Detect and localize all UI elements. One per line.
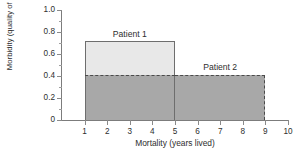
x-axis-tick [152, 120, 153, 125]
chart-container: Morbidity (quality of life scale) 00.20.… [0, 0, 300, 159]
y-axis-title: Morbidity (quality of life scale) [5, 0, 14, 74]
series-label-patient-2: Patient 2 [203, 62, 237, 72]
y-axis-tick [57, 10, 62, 11]
y-axis-tick-label: 0.6 [44, 50, 55, 58]
x-axis-tick [107, 120, 108, 125]
x-axis-tick-label: 9 [263, 128, 268, 136]
y-axis-minor-tick [59, 43, 62, 44]
y-axis-tick-label: 0.2 [44, 94, 55, 102]
plot-area: 00.20.40.60.81.012345678910 Patient 1Pat… [62, 10, 288, 120]
y-axis-tick-label: 0 [50, 116, 55, 124]
y-axis-tick-label: 1.0 [44, 6, 55, 14]
x-axis-tick [175, 120, 176, 125]
bar-patient-2-body [175, 75, 265, 120]
x-axis-tick-label: 1 [82, 128, 87, 136]
x-axis-tick [243, 120, 244, 125]
y-axis-tick [57, 98, 62, 99]
x-axis-tick-label: 8 [241, 128, 246, 136]
x-axis-tick-label: 7 [218, 128, 223, 136]
x-axis-tick-label: 10 [283, 128, 292, 136]
bar-patient-1-lower [85, 75, 175, 120]
y-axis-minor-tick [59, 21, 62, 22]
x-axis-tick [130, 120, 131, 125]
x-axis-tick-label: 6 [195, 128, 200, 136]
bar-patient-1-upper [85, 41, 175, 75]
x-axis-tick-label: 5 [173, 128, 178, 136]
x-axis-tick [220, 120, 221, 125]
y-axis-tick [57, 32, 62, 33]
y-axis-tick [57, 76, 62, 77]
y-axis-minor-tick [59, 87, 62, 88]
x-axis-tick-label: 4 [150, 128, 155, 136]
x-axis-tick [198, 120, 199, 125]
y-axis-minor-tick [59, 109, 62, 110]
y-axis-title-wrap: Morbidity (quality of life scale) [0, 0, 18, 120]
x-axis-title: Mortality (years lived) [62, 138, 288, 148]
y-axis-minor-tick [59, 65, 62, 66]
x-axis-tick [85, 120, 86, 125]
x-axis-tick-label: 3 [128, 128, 133, 136]
series-label-patient-1: Patient 1 [113, 29, 147, 39]
y-axis-tick-label: 0.8 [44, 28, 55, 36]
x-axis-tick [288, 120, 289, 125]
y-axis-tick-label: 0.4 [44, 72, 55, 80]
y-axis-tick [57, 120, 62, 121]
y-axis-tick [57, 54, 62, 55]
x-axis-tick [265, 120, 266, 125]
x-axis-tick-label: 2 [105, 128, 110, 136]
quality-of-life-divider-line [85, 75, 175, 76]
